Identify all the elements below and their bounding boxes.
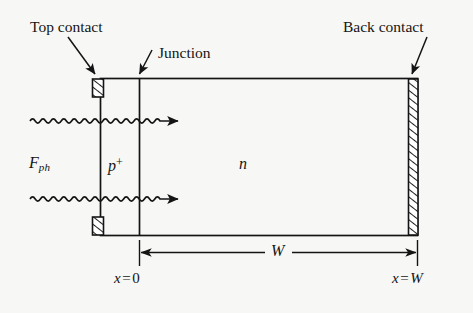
photon-flux-rays [30,119,178,201]
top-contact-label: Top contact [30,19,103,35]
photon-flux-label: Fph [29,155,50,173]
right-boundary-value: W [410,270,423,286]
photon-ray-lower [30,197,178,201]
back-contact-leader-arrow [412,37,427,74]
width-symbol-label: W [271,243,284,259]
top-contact-leader-arrow [68,37,95,74]
photon-flux-subscript: ph [39,161,50,173]
left-boundary-value: 0 [132,270,140,286]
solar-cell-cross-section-figure: Top contact Junction Back contact Fph p+… [0,0,473,313]
left-boundary-label: x=0 [114,271,140,286]
left-boundary-variable: x [114,270,121,286]
right-boundary-label: x=W [392,271,423,286]
emitter-superscript: + [116,155,123,169]
junction-label: Junction [158,45,211,61]
base-region-label: n [239,156,247,172]
junction-leader-arrow [140,50,153,74]
right-boundary-operator: = [399,270,410,286]
emitter-region-label: p+ [108,156,123,174]
diagram-canvas [0,0,473,313]
emitter-symbol: p [108,157,116,174]
callout-leader-lines [68,37,427,74]
right-boundary-variable: x [392,270,399,286]
photon-flux-symbol: F [29,154,39,171]
photon-ray-upper [30,119,178,123]
bottom-contact-pad [93,217,104,235]
top-contact-pad [93,79,104,97]
left-boundary-operator: = [121,270,132,286]
back-contact-bar [409,79,419,235]
device-body-outline [101,79,418,236]
back-contact-label: Back contact [343,19,423,35]
